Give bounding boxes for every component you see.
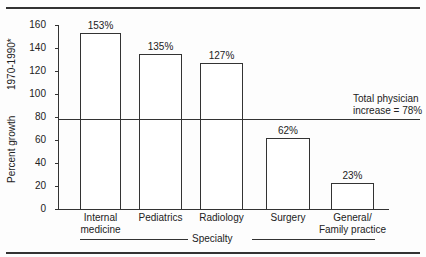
y-axis-line: [58, 25, 59, 210]
bar: [80, 33, 121, 210]
y-tick-label: 20: [22, 180, 46, 191]
reference-line-label: Total physician increase = 78%: [353, 93, 422, 117]
bar-value-label: 127%: [192, 50, 252, 61]
y-tick-label: 0: [22, 203, 46, 214]
reference-line: [58, 119, 420, 120]
x-axis-title-line-left: [80, 239, 188, 240]
x-axis-line: [55, 209, 389, 210]
bar: [266, 138, 310, 210]
x-axis-title: Specialty: [192, 233, 233, 244]
y-axis-label-sub: 1970-1990*: [6, 38, 17, 90]
bottom-rule: [6, 252, 420, 254]
y-tick-label: 80: [22, 111, 46, 122]
y-tick-label: 40: [22, 157, 46, 168]
x-axis-title-row: Specialty: [80, 233, 380, 245]
bar: [200, 63, 243, 210]
x-axis-title-line-right: [252, 239, 375, 240]
y-tick-label: 120: [22, 65, 46, 76]
bar: [139, 54, 182, 210]
bar-value-label: 135%: [131, 41, 191, 52]
reference-label-line1: Total physician: [353, 93, 422, 105]
top-rule: [6, 7, 420, 9]
y-tick-label: 160: [22, 19, 46, 30]
bar-value-label: 153%: [71, 20, 131, 31]
bar-value-label: 23%: [323, 170, 383, 181]
bar-value-label: 62%: [258, 125, 318, 136]
y-tick-label: 100: [22, 88, 46, 99]
bar: [331, 183, 374, 210]
y-tick-label: 60: [22, 134, 46, 145]
y-axis-label-main: Percent growth: [6, 116, 17, 183]
reference-label-line2: increase = 78%: [353, 105, 422, 117]
y-tick-label: 140: [22, 42, 46, 53]
x-category-label-line: General/: [313, 212, 393, 224]
